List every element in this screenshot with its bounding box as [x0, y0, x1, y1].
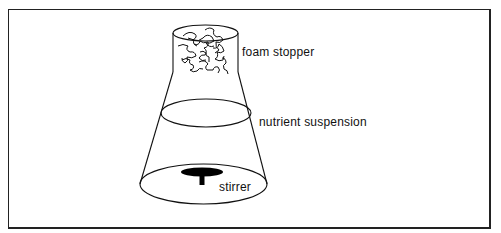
nutrient-surface-ellipse — [161, 99, 251, 127]
stopper-top-ellipse — [173, 25, 238, 41]
label-nutrient-suspension: nutrient suspension — [259, 115, 367, 129]
label-foam-stopper: foam stopper — [242, 45, 314, 59]
label-stirrer: stirrer — [219, 180, 251, 194]
stirrer-icon — [181, 168, 223, 186]
foam-stopper-icon — [178, 28, 228, 74]
flask-diagram — [0, 0, 501, 233]
